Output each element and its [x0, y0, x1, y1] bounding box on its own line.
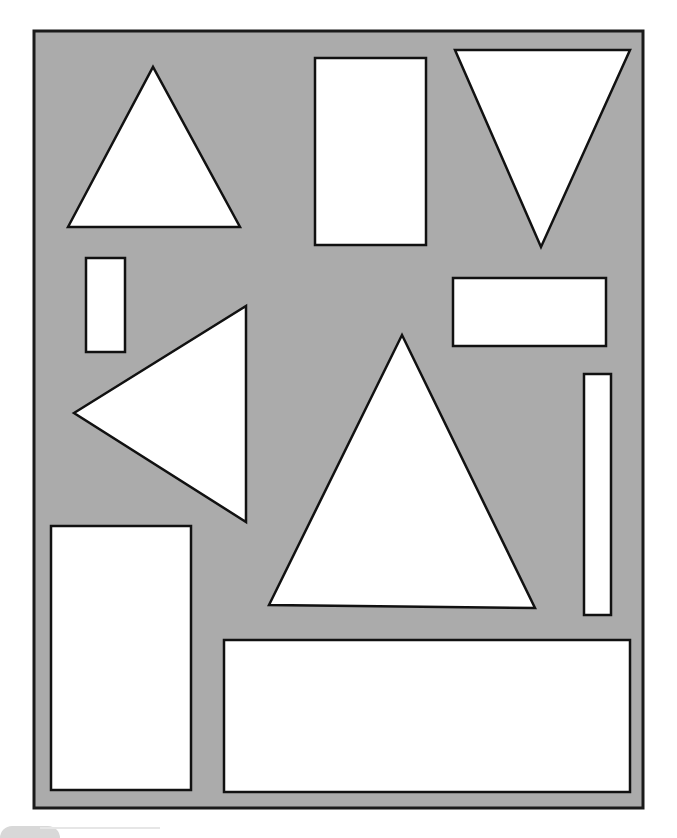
rect-small-vertical: [86, 258, 125, 352]
rect-thin-vertical: [584, 374, 611, 615]
page-edge-line: [40, 827, 160, 829]
rect-wide-right: [453, 278, 606, 346]
rect-wide-bottom: [224, 640, 630, 792]
rect-tall-top: [315, 58, 426, 245]
rect-tall-bottom-left: [51, 526, 191, 790]
